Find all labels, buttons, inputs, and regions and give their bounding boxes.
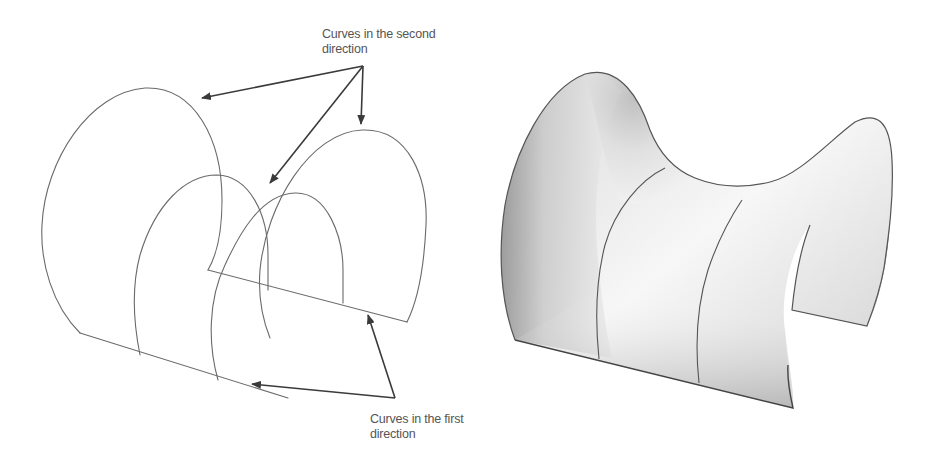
wireframe-curve-first-direction-bottom <box>80 333 288 398</box>
arrow-to-curve-3 <box>270 66 363 183</box>
wireframe-diagram <box>42 88 426 398</box>
arrow-to-bottom-edge <box>252 384 395 398</box>
first-direction-arrows <box>252 315 395 398</box>
label-curves-first-direction: Curves in the first direction <box>370 412 530 442</box>
arrow-to-curve-4 <box>361 66 363 124</box>
arrow-to-curve-1 <box>202 66 363 98</box>
label-curves-second-direction: Curves in the second direction <box>322 27 482 57</box>
wireframe-curve-second-direction-3 <box>211 193 343 380</box>
figure-svg <box>0 0 926 466</box>
wireframe-curve-second-direction-2 <box>134 175 268 355</box>
saddle-surface <box>501 72 892 408</box>
wireframe-curve-second-direction-4 <box>259 130 426 338</box>
wireframe-curve-second-direction-1 <box>42 88 222 333</box>
figure-canvas: Curves in the second direction Curves in… <box>0 0 926 466</box>
wireframe-curve-first-direction-top <box>208 270 407 322</box>
second-direction-arrows <box>202 66 363 183</box>
arrow-to-top-edge <box>368 315 395 398</box>
